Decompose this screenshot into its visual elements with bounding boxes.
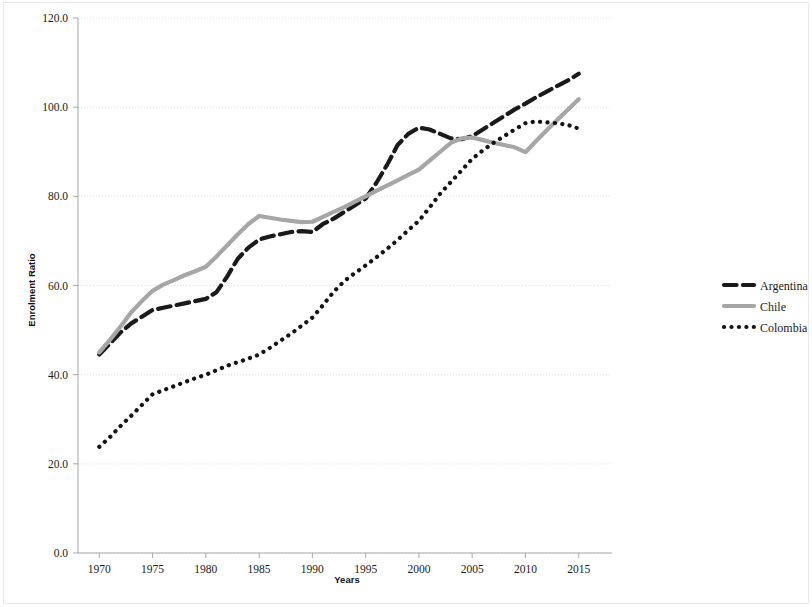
series-line-colombia bbox=[99, 121, 578, 446]
series-line-argentina bbox=[99, 74, 578, 355]
y-tick-label: 100.0 bbox=[42, 101, 68, 113]
legend-label-colombia: Colombia bbox=[760, 321, 808, 335]
x-tick-label: 2015 bbox=[567, 563, 590, 575]
x-tick-label: 2010 bbox=[514, 563, 537, 575]
y-tick-label: 0.0 bbox=[54, 547, 69, 559]
x-tick-label: 1970 bbox=[88, 563, 111, 575]
legend: ArgentinaChileColombia bbox=[724, 279, 808, 335]
y-tick-label: 80.0 bbox=[48, 190, 68, 202]
y-tick-label: 120.0 bbox=[42, 12, 68, 24]
y-tick-labels-group: 0.020.040.060.080.0100.0120.0 bbox=[42, 12, 68, 559]
x-axis-title: Years bbox=[334, 574, 359, 585]
x-axis-line-group bbox=[78, 553, 612, 558]
y-tick-label: 20.0 bbox=[48, 458, 68, 470]
x-tick-label: 2000 bbox=[407, 563, 430, 575]
x-tick-label: 1985 bbox=[248, 563, 271, 575]
y-tick-label: 60.0 bbox=[48, 280, 68, 292]
y-axis-line-group bbox=[73, 18, 78, 553]
x-tick-label: 1975 bbox=[141, 563, 164, 575]
y-tick-label: 40.0 bbox=[48, 369, 68, 381]
x-tick-label: 1990 bbox=[301, 563, 324, 575]
legend-label-argentina: Argentina bbox=[760, 279, 808, 293]
chart-container: 0.020.040.060.080.0100.0120.0 1970197519… bbox=[0, 0, 812, 607]
data-series-group bbox=[99, 74, 578, 447]
series-line-chile bbox=[99, 99, 578, 352]
axis-titles-group: Years Enrolment Ratio bbox=[26, 253, 360, 585]
x-tick-label: 1980 bbox=[194, 563, 217, 575]
legend-label-chile: Chile bbox=[760, 300, 786, 314]
x-tick-label: 2005 bbox=[461, 563, 484, 575]
y-axis-title: Enrolment Ratio bbox=[26, 253, 37, 327]
line-chart-plot: 0.020.040.060.080.0100.0120.0 1970197519… bbox=[0, 0, 812, 607]
